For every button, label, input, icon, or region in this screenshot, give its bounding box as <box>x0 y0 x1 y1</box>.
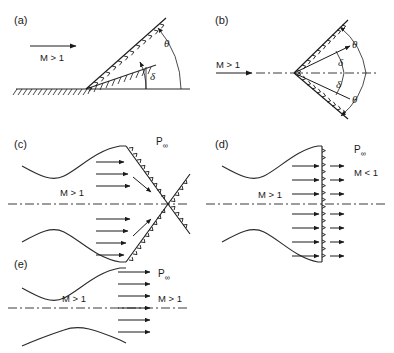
panel-d: (d) <box>206 138 388 262</box>
panel-d-downstream-flow-arrows <box>330 166 344 256</box>
panel-c-internal-mach-label: M > 1 <box>60 187 84 198</box>
panel-c-lower-shock <box>126 204 168 262</box>
panel-b-inflow-label: M > 1 <box>216 59 240 70</box>
panel-b-upper-theta-arc <box>340 27 366 73</box>
panel-a-ground-hatching <box>13 89 87 95</box>
panel-e-lower-nozzle-wall <box>22 328 126 346</box>
panel-d-lower-nozzle-wall <box>222 230 322 262</box>
panel-d-ambient-pressure-label: P∞ <box>354 144 366 158</box>
panel-e-flow-arrows <box>118 272 150 332</box>
panel-b-lower-theta-label: θ <box>352 93 358 105</box>
panel-a-theta-arc <box>158 28 181 89</box>
panel-b-upper-delta-label: δ <box>338 56 344 68</box>
panel-b-label: (b) <box>215 14 228 26</box>
panel-a: (a) θ <box>13 14 190 95</box>
panel-a-delta-arc <box>140 62 146 89</box>
panel-a-label: (a) <box>14 14 27 26</box>
panel-e: (e) M > 1 M > 1 P∞ <box>8 258 190 346</box>
panel-b-lower-delta-label: δ <box>336 78 342 90</box>
shock-wave-figure: (a) θ <box>0 0 394 353</box>
panel-a-delta-label: δ <box>150 70 156 82</box>
panel-a-theta-label: θ <box>164 37 170 49</box>
panel-d-label: (d) <box>215 138 228 150</box>
panel-b-lower-wedge-surface <box>294 73 350 99</box>
panel-a-ramp-hatching <box>88 67 151 94</box>
panel-d-upper-nozzle-wall <box>222 146 322 178</box>
panel-e-ambient-pressure-label: P∞ <box>158 268 170 282</box>
panel-d-internal-mach-label: M > 1 <box>258 189 282 200</box>
panel-d-normal-shock <box>322 146 325 262</box>
panel-d-downstream-mach-label: M < 1 <box>354 167 378 178</box>
panel-c-ambient-pressure-label: P∞ <box>156 136 168 150</box>
panel-c-label: (c) <box>14 138 27 150</box>
panel-e-internal-mach-label: M > 1 <box>62 293 86 304</box>
panel-c-upper-turn-arrow <box>133 177 151 192</box>
panel-e-label: (e) <box>14 258 27 270</box>
panel-c: (c) M > 1 <box>8 136 190 262</box>
panel-c-lower-nozzle-wall <box>22 230 126 262</box>
figure-container: (a) θ <box>0 0 394 353</box>
panel-b: (b) M > 1 θ θ δ δ <box>215 14 378 119</box>
panel-b-upper-theta-label: θ <box>352 38 358 50</box>
panel-c-upper-shock <box>126 146 168 204</box>
panel-c-flow-arrows <box>96 162 130 255</box>
panel-e-downstream-mach-label: M > 1 <box>158 293 182 304</box>
panel-a-inflow-label: M > 1 <box>40 52 64 63</box>
panel-d-upstream-flow-arrows <box>292 166 319 256</box>
